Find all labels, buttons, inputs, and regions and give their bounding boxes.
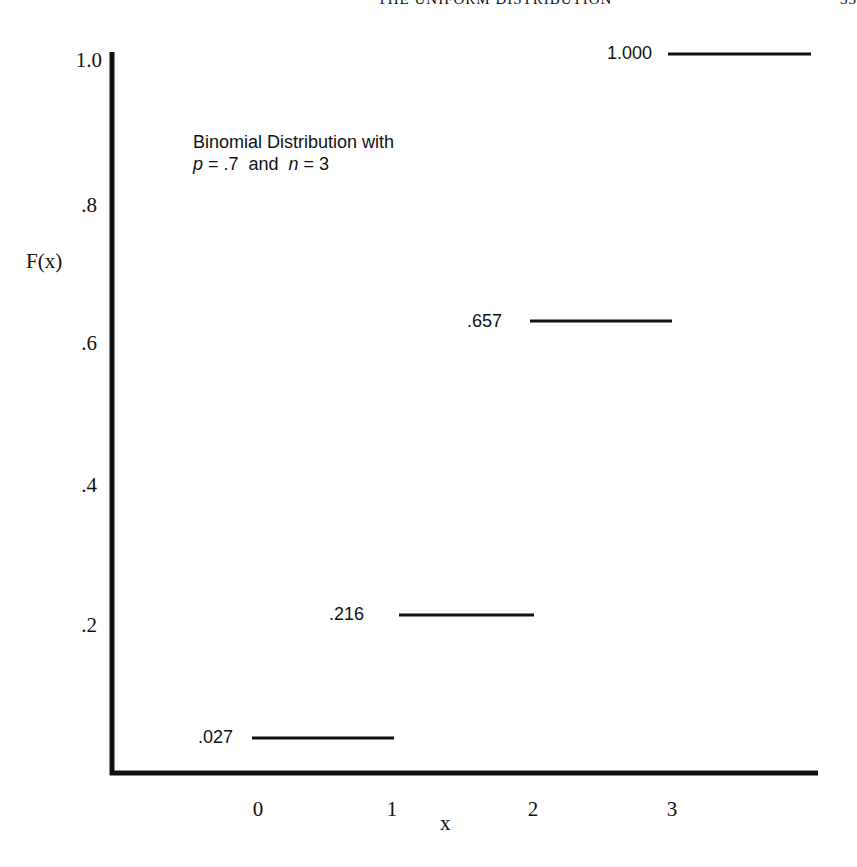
y-tick-label: 1.0 [42, 48, 102, 73]
segment-label: 1.000 [607, 43, 652, 64]
y-tick-label: .6 [37, 331, 97, 356]
x-tick-label: 0 [243, 797, 273, 822]
p-symbol: p [193, 154, 203, 174]
y-axis-label: F(x) [26, 249, 62, 274]
annotation-line1: Binomial Distribution with [193, 131, 394, 153]
segment-label: .027 [198, 727, 233, 748]
chart-annotation: Binomial Distribution with p = .7 and n … [193, 131, 394, 175]
x-axis-label: x [440, 811, 451, 836]
segment-label: .657 [467, 311, 502, 332]
y-tick-label: .4 [37, 473, 97, 498]
x-tick-label: 2 [518, 797, 548, 822]
n-value: = 3 [299, 154, 330, 174]
y-tick-label: .8 [37, 193, 97, 218]
p-value: = .7 and [203, 154, 289, 174]
x-tick-label: 1 [377, 797, 407, 822]
y-tick-label: .2 [37, 613, 97, 638]
annotation-line2: p = .7 and n = 3 [193, 153, 394, 175]
cdf-step-chart [0, 0, 857, 867]
x-tick-label: 3 [657, 797, 687, 822]
segment-label: .216 [329, 604, 364, 625]
n-symbol: n [289, 154, 299, 174]
